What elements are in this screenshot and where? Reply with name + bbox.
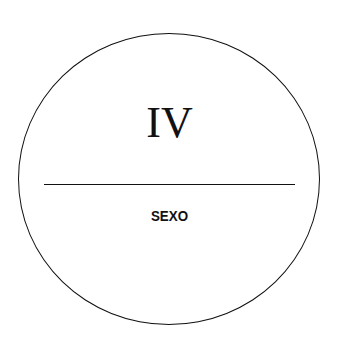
- roman-numeral: IV: [0, 98, 339, 148]
- category-label: SEXO: [14, 207, 326, 225]
- circle-outline: [18, 33, 320, 325]
- divider-line: [44, 184, 295, 185]
